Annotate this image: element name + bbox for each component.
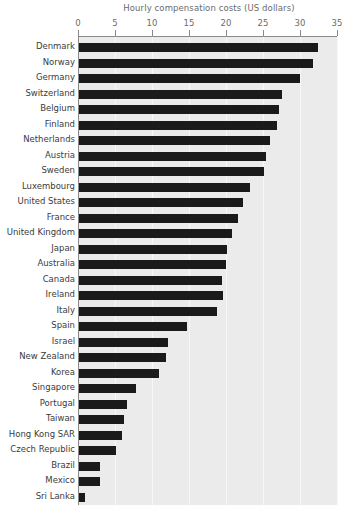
x-tick-mark (263, 30, 264, 36)
bar (78, 136, 270, 145)
bar-category-label: Brazil (51, 460, 75, 470)
y-axis-spine (78, 37, 79, 505)
bar-category-label: New Zealand (19, 351, 75, 361)
bar-row: Luxembourg (0, 179, 353, 195)
bar (78, 214, 238, 223)
bar-category-label: Norway (43, 57, 75, 67)
bar-category-label: Sweden (41, 165, 75, 175)
bar-row: Italy (0, 303, 353, 319)
bar (78, 477, 100, 486)
x-tick-mark (152, 30, 153, 36)
bar-category-label: Italy (57, 305, 75, 315)
bar-category-label: United Kingdom (7, 227, 75, 237)
bar-row: Hong Kong SAR (0, 427, 353, 443)
bar-row: Singapore (0, 380, 353, 396)
bar (78, 74, 300, 83)
bar-category-label: Australia (37, 258, 75, 268)
bar-row: New Zealand (0, 349, 353, 365)
bar (78, 260, 226, 269)
bar-category-label: Sri Lanka (36, 491, 75, 501)
bar-row: Israel (0, 334, 353, 350)
bar-row: Austria (0, 148, 353, 164)
bar-row: Denmark (0, 39, 353, 55)
bar-row: Brazil (0, 458, 353, 474)
x-tick-label: 15 (184, 18, 195, 28)
x-tick-label: 10 (147, 18, 158, 28)
bar-category-label: Portugal (40, 398, 75, 408)
bar (78, 307, 217, 316)
bar-row: Finland (0, 117, 353, 133)
bar-category-label: Austria (45, 150, 75, 160)
bar-row: Belgium (0, 101, 353, 117)
bar-row: United States (0, 194, 353, 210)
bar-category-label: Spain (51, 320, 75, 330)
bar (78, 431, 122, 440)
bar-row: Switzerland (0, 86, 353, 102)
bar (78, 198, 243, 207)
bar-category-label: Taiwan (46, 413, 75, 423)
bar-row: Czech Republic (0, 442, 353, 458)
bar (78, 167, 264, 176)
bar-row: Korea (0, 365, 353, 381)
bar-category-label: Korea (51, 367, 75, 377)
x-tick-label: 30 (295, 18, 306, 28)
bar-row: Japan (0, 241, 353, 257)
bar (78, 338, 168, 347)
bar (78, 291, 223, 300)
bar-row: France (0, 210, 353, 226)
x-tick-mark (115, 30, 116, 36)
chart-title: Hourly compensation costs (US dollars) (78, 3, 340, 13)
bar-category-label: Luxembourg (22, 181, 75, 191)
bar (78, 105, 279, 114)
bar-row: Ireland (0, 287, 353, 303)
bar-row: Spain (0, 318, 353, 334)
bar-category-label: Canada (43, 274, 75, 284)
bar (78, 384, 136, 393)
bar (78, 322, 187, 331)
bar-category-label: Hong Kong SAR (9, 429, 75, 439)
bar-category-label: United States (17, 196, 75, 206)
x-tick-label: 5 (112, 18, 117, 28)
x-tick-mark (189, 30, 190, 36)
bar-chart: Hourly compensation costs (US dollars) 0… (0, 0, 353, 509)
bar-category-label: Czech Republic (10, 444, 75, 454)
x-tick-label: 20 (221, 18, 232, 28)
bar-row: Australia (0, 256, 353, 272)
bar (78, 446, 116, 455)
bar (78, 276, 222, 285)
bar-row: Sri Lanka (0, 489, 353, 505)
bar (78, 369, 159, 378)
bar (78, 43, 318, 52)
bar-row: Germany (0, 70, 353, 86)
bar-category-label: Germany (36, 72, 75, 82)
bar-row: Canada (0, 272, 353, 288)
bar (78, 229, 232, 238)
bar (78, 152, 266, 161)
bar (78, 353, 166, 362)
bar-category-label: France (47, 212, 75, 222)
x-tick-mark (226, 30, 227, 36)
bar-category-label: Switzerland (25, 88, 75, 98)
bar-category-label: Belgium (40, 103, 75, 113)
bar (78, 90, 282, 99)
bar (78, 183, 250, 192)
bar (78, 121, 277, 130)
x-tick-mark (300, 30, 301, 36)
bar (78, 462, 100, 471)
x-tick-label: 25 (258, 18, 269, 28)
x-tick-label: 0 (75, 18, 80, 28)
bar (78, 245, 227, 254)
bar-row: Norway (0, 55, 353, 71)
bar (78, 400, 127, 409)
bar-row: Mexico (0, 473, 353, 489)
bar-row: Sweden (0, 163, 353, 179)
bar-category-label: Ireland (46, 289, 75, 299)
x-tick-mark (337, 30, 338, 36)
x-tick-label: 35 (332, 18, 343, 28)
bar-category-label: Denmark (36, 41, 75, 51)
bar-row: Netherlands (0, 132, 353, 148)
bar-category-label: Netherlands (23, 134, 75, 144)
bar-row: Taiwan (0, 411, 353, 427)
x-axis-line (78, 36, 337, 37)
bar (78, 59, 313, 68)
